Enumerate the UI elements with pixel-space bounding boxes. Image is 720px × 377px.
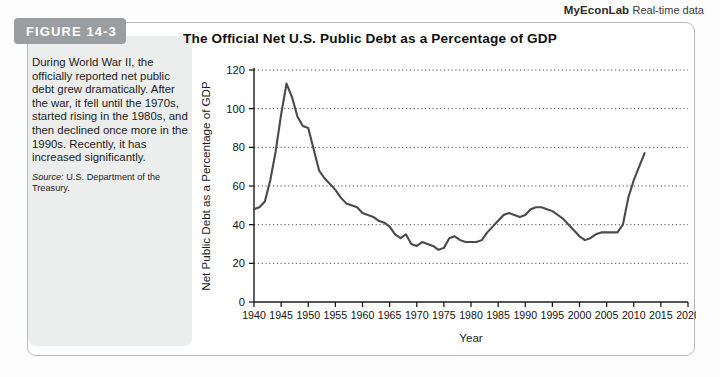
y-tick-label: 0	[239, 296, 245, 308]
debt-series-line	[254, 84, 645, 250]
x-tick-label: 1950	[296, 309, 320, 321]
x-tick-label: 1940	[242, 309, 266, 321]
x-tick-label: 1965	[378, 309, 402, 321]
myeconlab-subtitle: Real-time data	[632, 4, 704, 16]
x-tick-label: 2020	[676, 309, 696, 321]
y-tick-label: 120	[226, 64, 245, 76]
chart-area: 0204060801001201940194519501955196019651…	[196, 58, 696, 358]
x-tick-label: 2000	[568, 309, 592, 321]
y-tick-label: 80	[233, 141, 245, 153]
x-tick-label: 2005	[595, 309, 619, 321]
figure-number-badge: FIGURE 14-3	[14, 18, 126, 44]
x-tick-label: 1980	[459, 309, 483, 321]
figure-screenshot: MyEconLab Real-time data FIGURE 14-3 Dur…	[0, 0, 720, 377]
myeconlab-brand: MyEconLab	[564, 4, 629, 16]
source-label: Source:	[32, 172, 64, 182]
line-chart: 0204060801001201940194519501955196019651…	[196, 58, 696, 358]
x-tick-label: 1985	[486, 309, 510, 321]
x-tick-label: 1945	[269, 309, 293, 321]
chart-title: The Official Net U.S. Public Debt as a P…	[140, 31, 600, 46]
x-tick-label: 1960	[351, 309, 375, 321]
x-tick-label: 1955	[324, 309, 348, 321]
x-tick-label: 1995	[541, 309, 565, 321]
x-tick-label: 1970	[405, 309, 429, 321]
x-axis-title: Year	[459, 331, 483, 344]
x-tick-label: 2010	[622, 309, 646, 321]
y-tick-label: 60	[233, 180, 245, 192]
y-axis-title: Net Public Debt as a Percentage of GDP	[199, 81, 212, 291]
figure-caption: During World War II, the officially repo…	[32, 56, 190, 165]
x-tick-label: 1975	[432, 309, 456, 321]
myeconlab-label: MyEconLab Real-time data	[564, 4, 704, 16]
x-tick-label: 2015	[649, 309, 673, 321]
figure-source: Source: U.S. Department of the Treasury.	[32, 172, 196, 194]
y-tick-label: 100	[226, 103, 245, 115]
y-tick-label: 40	[233, 219, 245, 231]
y-tick-label: 20	[233, 257, 245, 269]
x-tick-label: 1990	[513, 309, 537, 321]
